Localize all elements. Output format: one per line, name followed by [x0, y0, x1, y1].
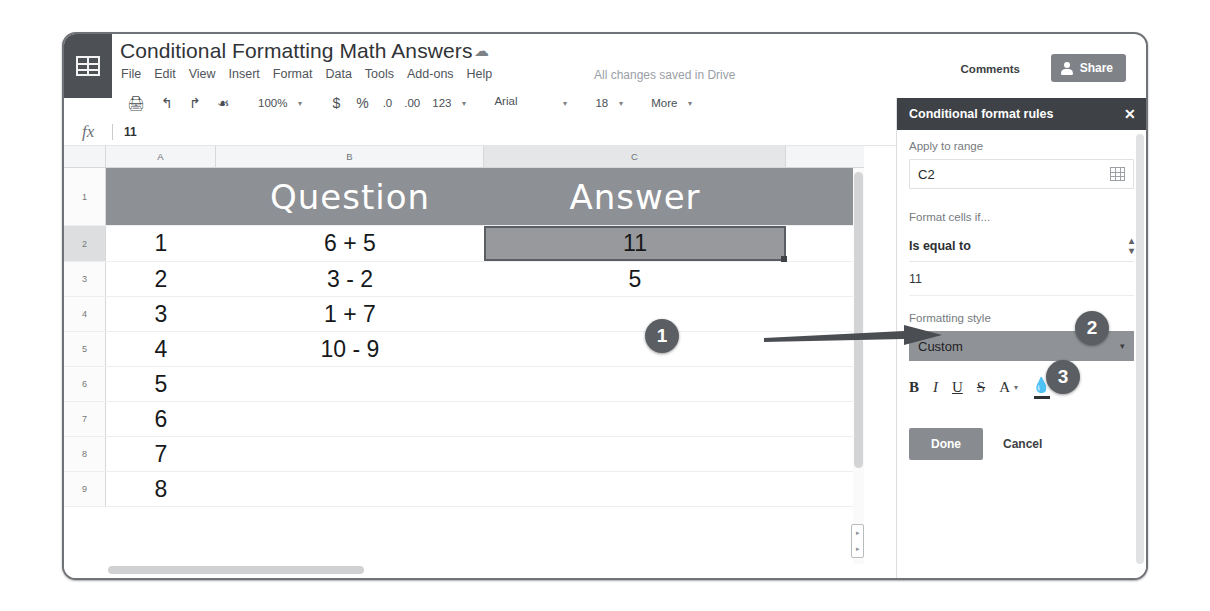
- menu-item-format[interactable]: Format: [273, 67, 313, 81]
- apply-to-range-label: Apply to range: [909, 140, 1134, 152]
- menu-item-view[interactable]: View: [189, 67, 216, 81]
- menu-item-addons[interactable]: Add-ons: [407, 67, 454, 81]
- share-button[interactable]: Share: [1051, 54, 1126, 82]
- row-header[interactable]: 1: [64, 168, 106, 225]
- menu-item-edit[interactable]: Edit: [154, 67, 176, 81]
- save-status: All changes saved in Drive: [594, 68, 735, 82]
- row-header[interactable]: 8: [64, 437, 106, 471]
- text-color-button[interactable]: A: [999, 379, 1010, 396]
- condition-value: Is equal to: [909, 239, 971, 253]
- menu-item-help[interactable]: Help: [467, 67, 493, 81]
- more-button[interactable]: More: [647, 90, 681, 116]
- cell-c2-selected[interactable]: 11: [484, 226, 786, 261]
- percent-format-button[interactable]: %: [350, 90, 374, 116]
- header-band: Question Answer: [106, 168, 864, 225]
- font-name-select[interactable]: Arial: [490, 90, 556, 116]
- cell-a6[interactable]: 5: [106, 367, 216, 401]
- print-icon[interactable]: 🖨: [121, 90, 151, 116]
- chevron-down-icon-numfmt[interactable]: ▾: [459, 90, 472, 116]
- select-all-corner[interactable]: [64, 146, 106, 167]
- done-button[interactable]: Done: [909, 428, 983, 460]
- grid-horizontal-scrollbar[interactable]: [108, 566, 364, 574]
- zoom-level[interactable]: 100%: [254, 90, 291, 116]
- cell-c9[interactable]: [484, 472, 786, 506]
- cell-c5[interactable]: [484, 332, 786, 366]
- number-format-button[interactable]: 123: [428, 90, 455, 116]
- row-expand-control[interactable]: ▸ ▸: [851, 524, 864, 558]
- row-header[interactable]: 5: [64, 332, 106, 366]
- cell-b8[interactable]: [216, 437, 484, 471]
- chevron-down-icon-text-color[interactable]: ▾: [1014, 383, 1018, 392]
- paint-format-icon[interactable]: ☙: [211, 90, 236, 116]
- cell-c8[interactable]: [484, 437, 786, 471]
- condition-select[interactable]: Is equal to ▴▾: [909, 230, 1134, 262]
- callout-badge-2: 2: [1075, 311, 1109, 345]
- chevron-down-icon-zoom[interactable]: ▾: [295, 90, 308, 116]
- cell-a5[interactable]: 4: [106, 332, 216, 366]
- table-row: 6 5: [64, 367, 864, 402]
- strikethrough-button[interactable]: S: [977, 379, 985, 396]
- cell-b7[interactable]: [216, 402, 484, 436]
- page-title[interactable]: Conditional Formatting Math Answers: [120, 39, 473, 63]
- chevron-down-icon-more[interactable]: ▾: [685, 90, 698, 116]
- cell-c1[interactable]: Answer: [484, 168, 786, 225]
- menu-item-data[interactable]: Data: [325, 67, 351, 81]
- cell-a4[interactable]: 3: [106, 297, 216, 331]
- column-header-c[interactable]: C: [484, 146, 786, 167]
- cell-a2[interactable]: 1: [106, 226, 216, 261]
- cell-b3[interactable]: 3 - 2: [216, 262, 484, 296]
- redo-arrow-icon[interactable]: ↱: [183, 90, 207, 116]
- cell-c7[interactable]: [484, 402, 786, 436]
- undo-arrow-icon[interactable]: ↰: [155, 90, 179, 116]
- updown-chevron-icon: ▴▾: [1129, 236, 1134, 256]
- table-row: 5 4 10 - 9: [64, 332, 864, 367]
- sheets-logo[interactable]: [64, 34, 112, 98]
- cell-b9[interactable]: [216, 472, 484, 506]
- comments-button[interactable]: Comments: [951, 57, 1030, 81]
- cell-a9[interactable]: 8: [106, 472, 216, 506]
- increase-decimal-button[interactable]: .00: [400, 90, 424, 116]
- currency-format-button[interactable]: $: [326, 90, 346, 116]
- cell-a8[interactable]: 7: [106, 437, 216, 471]
- cancel-button[interactable]: Cancel: [1003, 437, 1042, 451]
- row-header[interactable]: 6: [64, 367, 106, 401]
- toolbar: 🖨 ↰ ↱ ☙ 100% ▾ $ % .0 .00 123 ▾ Arial ▾ …: [121, 88, 702, 118]
- italic-button[interactable]: I: [933, 379, 938, 396]
- underline-button[interactable]: U: [952, 379, 963, 396]
- grid-vertical-scrollbar[interactable]: [854, 172, 863, 468]
- menu-item-file[interactable]: File: [121, 67, 141, 81]
- row-header[interactable]: 2: [64, 226, 106, 261]
- bold-button[interactable]: B: [909, 379, 919, 396]
- cell-a3[interactable]: 2: [106, 262, 216, 296]
- cell-c3[interactable]: 5: [484, 262, 786, 296]
- cell-b1[interactable]: Question: [216, 168, 484, 225]
- font-size-select[interactable]: 18: [591, 90, 612, 116]
- column-header-b[interactable]: B: [216, 146, 484, 167]
- row-header[interactable]: 4: [64, 297, 106, 331]
- grid-select-icon[interactable]: [1110, 167, 1125, 181]
- panel-vertical-scrollbar[interactable]: [1136, 134, 1144, 564]
- cell-b5[interactable]: 10 - 9: [216, 332, 484, 366]
- column-header-a[interactable]: A: [106, 146, 216, 167]
- close-icon[interactable]: ✕: [1124, 107, 1136, 121]
- cell-b4[interactable]: 1 + 7: [216, 297, 484, 331]
- chevron-down-icon-fontsize[interactable]: ▾: [616, 90, 629, 116]
- menu-item-insert[interactable]: Insert: [229, 67, 260, 81]
- menu-item-tools[interactable]: Tools: [365, 67, 394, 81]
- cell-c4[interactable]: [484, 297, 786, 331]
- formula-input[interactable]: 11: [124, 125, 137, 139]
- cell-b2[interactable]: 6 + 5: [216, 226, 484, 261]
- row-header[interactable]: 7: [64, 402, 106, 436]
- cell-b6[interactable]: [216, 367, 484, 401]
- row-header[interactable]: 3: [64, 262, 106, 296]
- format-cells-if-label: Format cells if...: [909, 211, 1134, 223]
- cell-a1[interactable]: [106, 168, 216, 225]
- decrease-decimal-button[interactable]: .0: [379, 90, 397, 116]
- criteria-input[interactable]: 11: [909, 262, 1134, 296]
- cell-c6[interactable]: [484, 367, 786, 401]
- chevron-down-icon-font[interactable]: ▾: [560, 90, 573, 116]
- apply-to-range-input[interactable]: C2: [909, 159, 1134, 189]
- row-header[interactable]: 9: [64, 472, 106, 506]
- table-row: 7 6: [64, 402, 864, 437]
- cell-a7[interactable]: 6: [106, 402, 216, 436]
